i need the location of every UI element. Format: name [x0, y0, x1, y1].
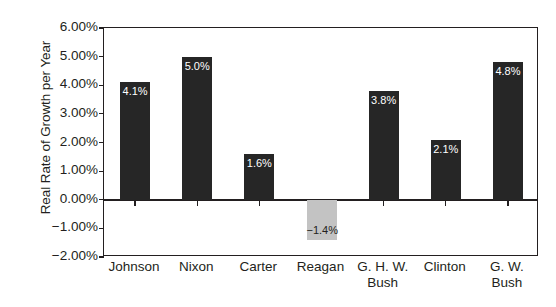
x-tick-mark [507, 200, 508, 206]
x-tick-label-line: Carter [240, 259, 278, 274]
x-tick-label: Carter [227, 259, 289, 275]
plot-area: 4.1%5.0%1.6%−1.4%3.8%2.1%4.8% [103, 27, 538, 256]
bar-value-label: 2.1% [431, 144, 461, 155]
y-tick-label: −2.00% [40, 249, 98, 263]
bar-value-label: 5.0% [182, 61, 212, 72]
y-tick-mark [99, 199, 104, 200]
x-tick-label: G. H. W.Bush [352, 259, 414, 291]
x-tick-label-line: Bush [352, 275, 414, 291]
y-tick-label: 5.00% [40, 49, 98, 63]
x-tick-label-line: Nixon [179, 259, 214, 274]
y-tick-mark [99, 256, 104, 257]
bar-chart-figure: Real Rate of Growth per Year 6.00%5.00%4… [0, 0, 556, 307]
x-tick-label: G. W.Bush [476, 259, 538, 291]
x-tick-label-line: Bush [476, 275, 538, 291]
x-tick-label-line: Clinton [424, 259, 466, 274]
x-tick-label-line: G. W. [490, 259, 524, 274]
x-tick-label-line: Reagan [297, 259, 344, 274]
x-tick-label-line: Johnson [109, 259, 160, 274]
bar: 2.1% [431, 140, 461, 200]
bar: 3.8% [369, 91, 399, 200]
bar: 4.1% [120, 82, 150, 199]
x-tick-mark [383, 200, 384, 206]
bar-value-label: 1.6% [244, 158, 274, 169]
bar: 1.6% [244, 154, 274, 200]
x-tick-label: Johnson [103, 259, 165, 275]
y-tick-mark [99, 228, 104, 229]
x-tick-mark [134, 200, 135, 206]
bar: 5.0% [182, 57, 212, 200]
y-tick-label: 0.00% [40, 192, 98, 206]
y-tick-mark [99, 171, 104, 172]
x-tick-label: Reagan [289, 259, 351, 275]
y-tick-label: 2.00% [40, 135, 98, 149]
y-tick-mark [99, 56, 104, 57]
y-tick-label: 6.00% [40, 20, 98, 34]
y-tick-label: −1.00% [40, 221, 98, 235]
y-axis-tick-labels: 6.00%5.00%4.00%3.00%2.00%1.00%0.00%−1.00… [40, 27, 98, 256]
x-axis-tick-labels: JohnsonNixonCarterReaganG. H. W.BushClin… [103, 259, 538, 305]
bar-value-label: 3.8% [369, 95, 399, 106]
bar: −1.4% [307, 200, 337, 240]
y-tick-label: 1.00% [40, 163, 98, 177]
x-tick-label-line: G. H. W. [357, 259, 408, 274]
y-tick-label: 3.00% [40, 106, 98, 120]
bar-value-label: 4.8% [493, 66, 523, 77]
y-tick-mark [99, 85, 104, 86]
y-tick-mark [99, 113, 104, 114]
x-tick-mark [259, 200, 260, 206]
y-tick-label: 4.00% [40, 78, 98, 92]
bar-value-label: 4.1% [120, 86, 150, 97]
x-tick-mark [445, 200, 446, 206]
bar-value-label: −1.4% [307, 225, 337, 236]
x-tick-label: Nixon [165, 259, 227, 275]
y-tick-mark [99, 142, 104, 143]
x-tick-label: Clinton [414, 259, 476, 275]
bar: 4.8% [493, 62, 523, 199]
x-tick-mark [197, 200, 198, 206]
y-tick-mark [99, 27, 104, 28]
